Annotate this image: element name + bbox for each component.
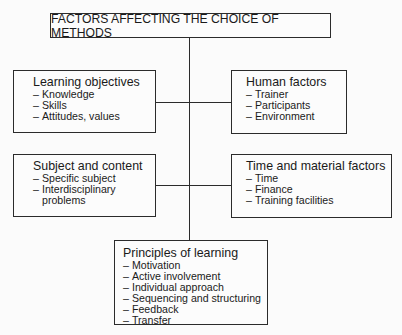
principles-learning-list: –Motivation –Active involvement –Individ… [123,260,267,326]
time-material-box: Time and material factors –Time –Finance… [231,154,392,218]
list-item: –Attitudes, values [33,111,155,122]
subject-content-box: Subject and content –Specific subject –I… [13,154,156,217]
learning-objectives-box: Learning objectives –Knowledge –Skills –… [13,70,156,133]
connector-row-2 [155,185,232,186]
human-factors-list: –Trainer –Participants –Environment [246,89,346,122]
time-material-list: –Time –Finance –Training facilities [246,173,391,206]
subject-content-list: –Specific subject –Interdisciplinary pro… [33,173,155,206]
list-item: –Transfer [123,315,267,326]
learning-objectives-list: –Knowledge –Skills –Attitudes, values [33,89,155,122]
principles-learning-box: Principles of learning –Motivation –Acti… [114,240,268,325]
diagram-title: FACTORS AFFECTING THE CHOICE OF METHODS [51,12,330,40]
list-item-continuation: problems [33,195,155,206]
list-item: –Training facilities [246,195,391,206]
human-factors-box: Human factors –Trainer –Participants –En… [231,70,347,134]
connector-row-1 [155,102,232,103]
list-item: –Environment [246,111,346,122]
trunk-connector [189,37,190,241]
diagram-title-box: FACTORS AFFECTING THE CHOICE OF METHODS [50,13,331,38]
